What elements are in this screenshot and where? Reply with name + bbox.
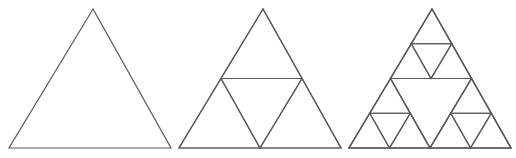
stage-iteration-1	[179, 9, 341, 148]
triangle-outline	[411, 9, 452, 44]
inner-triangle	[411, 44, 452, 79]
inner-triangle	[451, 113, 492, 148]
triangle-outline	[9, 9, 171, 148]
stage-iteration-0	[9, 9, 171, 148]
inner-triangle	[370, 113, 411, 148]
triangle-outline	[471, 113, 512, 148]
triangle-outline	[431, 44, 472, 79]
triangle-outline	[260, 79, 341, 149]
triangle-outline	[430, 113, 471, 148]
triangle-canvas	[0, 0, 516, 158]
triangle-outline	[349, 113, 390, 148]
inner-triangle	[221, 79, 302, 149]
triangle-outline	[390, 113, 431, 148]
stage-iteration-2	[349, 9, 511, 148]
triangle-outline	[221, 9, 302, 79]
triangle-outline	[370, 79, 411, 114]
triangle-outline	[391, 44, 432, 79]
sierpinski-figure	[0, 0, 516, 158]
triangle-outline	[179, 79, 260, 149]
triangle-outline	[451, 79, 492, 114]
